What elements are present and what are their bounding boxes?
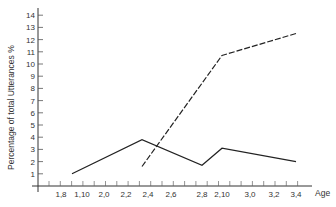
dashed-series-line: [142, 34, 296, 167]
y-tick-label: 10: [26, 60, 35, 69]
y-tick-label: 13: [26, 23, 35, 32]
y-tick-label: 5: [31, 121, 36, 130]
x-tick-label: 2,8: [196, 190, 208, 199]
x-tick-label: 2,10: [214, 190, 230, 199]
x-tick-label: 3,0: [244, 190, 256, 199]
solid-series-line: [72, 140, 296, 174]
x-tick-label: 3,4: [290, 190, 302, 199]
y-tick-label: 9: [31, 72, 36, 81]
y-tick-label: 2: [31, 158, 36, 167]
x-axis: 1,81,102,02,22,42,62,82,103,03,23,4 Age: [32, 181, 330, 199]
y-tick-label: 4: [31, 133, 36, 142]
x-tick-label: 3,2: [268, 190, 280, 199]
x-tick-label: 2,4: [142, 190, 154, 199]
x-tick-label: 2,2: [120, 190, 132, 199]
series-layer: [72, 34, 296, 174]
x-tick-label: 1,8: [55, 190, 67, 199]
x-tick-label: 1,10: [74, 190, 90, 199]
y-tick-label: 3: [31, 145, 36, 154]
x-axis-label: Age: [315, 188, 330, 198]
y-tick-label: 1: [31, 170, 36, 179]
y-tick-label: 14: [26, 11, 35, 20]
x-tick-label: 2,6: [165, 190, 177, 199]
y-axis: 1234567891011121314: [26, 8, 43, 192]
y-tick-label: 12: [26, 36, 35, 45]
y-tick-label: 7: [31, 97, 36, 106]
line-chart: 1234567891011121314 1,81,102,02,22,42,62…: [0, 0, 336, 207]
y-tick-label: 11: [27, 48, 36, 57]
y-tick-label: 6: [31, 109, 36, 118]
y-axis-label: Percentage of total Utterances %: [6, 45, 16, 170]
y-tick-label: 8: [31, 84, 36, 93]
x-tick-label: 2,0: [98, 190, 110, 199]
